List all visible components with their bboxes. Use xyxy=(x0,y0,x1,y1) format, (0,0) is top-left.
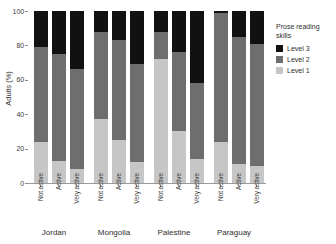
x-tick-label: Not active xyxy=(157,173,164,213)
bar-mongolia-very-active[interactable] xyxy=(130,11,144,183)
legend-label-level-2: Level 2 xyxy=(287,56,310,63)
bar-segment-level-2 xyxy=(130,64,144,162)
bar-segment-level-3 xyxy=(250,11,264,44)
bar-segment-level-1 xyxy=(154,59,168,183)
legend-title: Prose reading skills xyxy=(276,22,334,40)
x-tick-label: Active xyxy=(175,173,182,213)
y-axis: Adults (%) 020406080100 xyxy=(0,0,28,244)
bar-jordan-very-active[interactable] xyxy=(70,11,84,183)
bar-group-palestine xyxy=(154,11,208,183)
bar-paraguay-very-active[interactable] xyxy=(250,11,264,183)
y-tick-label: 0 xyxy=(20,180,24,187)
bar-segment-level-3 xyxy=(232,11,246,37)
x-tick-label: Very active xyxy=(193,173,200,213)
x-tick-jordan-active: Active xyxy=(52,184,66,230)
bar-segment-level-3 xyxy=(190,11,204,83)
bar-segment-level-2 xyxy=(154,32,168,60)
bar-palestine-active[interactable] xyxy=(172,11,186,183)
legend: Prose reading skills Level 3 Level 2 Lev… xyxy=(276,22,336,78)
x-tick-label: Not active xyxy=(37,173,44,213)
legend-label-level-1: Level 1 xyxy=(287,67,310,74)
x-tick-palestine-active: Active xyxy=(172,184,186,230)
bar-segment-level-3 xyxy=(52,11,66,54)
bar-segment-level-2 xyxy=(94,32,108,120)
y-tick-label: 80 xyxy=(16,42,24,49)
legend-item-level-2[interactable]: Level 2 xyxy=(276,56,336,63)
legend-title-line2: skills xyxy=(276,32,291,39)
chart-root: Adults (%) 020406080100 Prose reading sk… xyxy=(0,0,336,244)
legend-swatch-level-2 xyxy=(276,56,283,63)
bar-group-jordan xyxy=(34,11,88,183)
bar-jordan-not-active[interactable] xyxy=(34,11,48,183)
bar-mongolia-not-active[interactable] xyxy=(94,11,108,183)
x-tick-label: Active xyxy=(235,173,242,213)
bar-mongolia-active[interactable] xyxy=(112,11,126,183)
bar-segment-level-2 xyxy=(190,83,204,159)
x-tick-label: Very active xyxy=(253,173,260,213)
bar-segment-level-2 xyxy=(52,54,66,161)
bar-paraguay-active[interactable] xyxy=(232,11,246,183)
group-label-palestine: Palestine xyxy=(144,228,204,237)
bar-segment-level-3 xyxy=(94,11,108,32)
bar-segment-level-3 xyxy=(130,11,144,64)
x-tick-mongolia-not-active: Not active xyxy=(94,184,108,230)
x-tick-mongolia-active: Active xyxy=(112,184,126,230)
bar-segment-level-2 xyxy=(214,13,228,142)
x-tick-label: Not active xyxy=(217,173,224,213)
x-tick-palestine-not-active: Not active xyxy=(154,184,168,230)
bar-segment-level-3 xyxy=(34,11,48,47)
y-tick-label: 60 xyxy=(16,76,24,83)
legend-label-level-3: Level 3 xyxy=(287,45,310,52)
group-label-jordan: Jordan xyxy=(24,228,84,237)
x-tick-palestine-very-active: Very active xyxy=(190,184,204,230)
bar-palestine-very-active[interactable] xyxy=(190,11,204,183)
x-tick-label: Active xyxy=(55,173,62,213)
y-axis-label: Adults (%) xyxy=(4,59,13,119)
x-tick-label: Very active xyxy=(133,173,140,213)
bar-group-paraguay xyxy=(214,11,268,183)
bar-jordan-active[interactable] xyxy=(52,11,66,183)
bar-segment-level-2 xyxy=(70,69,84,169)
x-tick-label: Active xyxy=(115,173,122,213)
x-tick-paraguay-not-active: Not active xyxy=(214,184,228,230)
bar-segment-level-2 xyxy=(232,37,246,164)
x-tick-paraguay-active: Active xyxy=(232,184,246,230)
x-tick-paraguay-very-active: Very active xyxy=(250,184,264,230)
bar-palestine-not-active[interactable] xyxy=(154,11,168,183)
bar-segment-level-3 xyxy=(154,11,168,32)
legend-title-line1: Prose reading xyxy=(276,23,320,30)
legend-swatch-level-3 xyxy=(276,45,283,52)
y-tick-label: 100 xyxy=(13,8,24,15)
x-tick-label: Very active xyxy=(73,173,80,213)
bar-segment-level-2 xyxy=(250,44,264,166)
legend-item-level-3[interactable]: Level 3 xyxy=(276,45,336,52)
plot-area xyxy=(28,11,266,183)
group-label-paraguay: Paraguay xyxy=(204,228,264,237)
bar-segment-level-2 xyxy=(112,40,126,140)
bar-paraguay-not-active[interactable] xyxy=(214,11,228,183)
bar-segment-level-3 xyxy=(172,11,186,52)
x-tick-jordan-very-active: Very active xyxy=(70,184,84,230)
x-tick-mongolia-very-active: Very active xyxy=(130,184,144,230)
group-label-mongolia: Mongolia xyxy=(84,228,144,237)
legend-item-level-1[interactable]: Level 1 xyxy=(276,67,336,74)
bar-segment-level-3 xyxy=(70,11,84,69)
x-tick-jordan-not-active: Not active xyxy=(34,184,48,230)
y-tick-label: 20 xyxy=(16,145,24,152)
x-tick-label: Not active xyxy=(97,173,104,213)
bar-segment-level-3 xyxy=(112,11,126,40)
bar-segment-level-2 xyxy=(34,47,48,142)
legend-swatch-level-1 xyxy=(276,67,283,74)
y-tick-label: 40 xyxy=(16,111,24,118)
bar-group-mongolia xyxy=(94,11,148,183)
bar-segment-level-2 xyxy=(172,52,186,131)
